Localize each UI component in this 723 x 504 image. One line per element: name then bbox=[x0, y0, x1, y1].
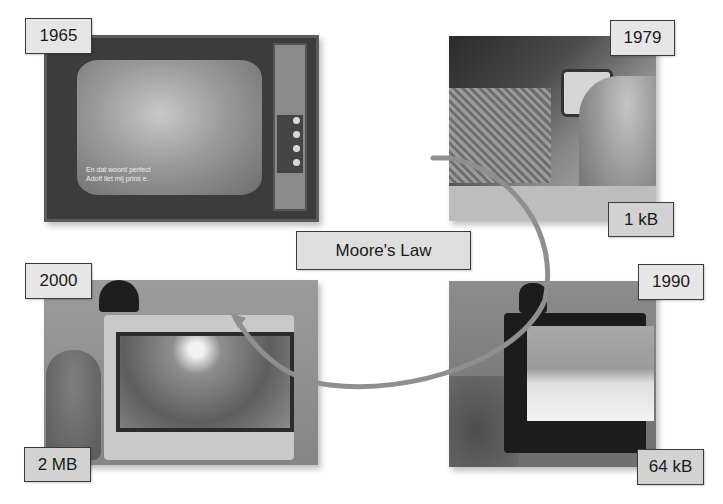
tv-1990-photo bbox=[449, 281, 656, 467]
year-label-2000: 2000 bbox=[25, 263, 92, 299]
year-label-1965: 1965 bbox=[25, 18, 92, 54]
knob-icon bbox=[293, 145, 300, 152]
knob-icon bbox=[293, 117, 300, 124]
screen-image bbox=[120, 336, 290, 428]
memory-label-1979: 1 kB bbox=[608, 202, 674, 237]
tv-1965-photo: En dat woord perfect Adolf liet mij prin… bbox=[44, 35, 319, 222]
tv-subtitle: En dat woord perfect Adolf liet mij prin… bbox=[86, 165, 151, 183]
year-label-1979: 1979 bbox=[610, 20, 675, 56]
knob-icon bbox=[293, 159, 300, 166]
tv-control-panel bbox=[273, 43, 307, 211]
subtitle-line-2: Adolf liet mij prins e. bbox=[86, 174, 151, 183]
lamp bbox=[519, 283, 547, 313]
knob-icon bbox=[293, 131, 300, 138]
circuit-board bbox=[449, 88, 551, 183]
doll bbox=[46, 350, 101, 460]
memory-label-2000: 2 MB bbox=[24, 447, 91, 482]
tv-screen bbox=[116, 332, 294, 432]
moores-law-title: Moore's Law bbox=[296, 231, 471, 270]
year-label-1990: 1990 bbox=[638, 264, 704, 300]
lamp bbox=[99, 280, 139, 312]
computer-1979-photo bbox=[449, 36, 656, 221]
subtitle-line-1: En dat woord perfect bbox=[86, 165, 151, 174]
tv-2000-photo bbox=[44, 280, 318, 465]
memory-label-1990: 64 kB bbox=[637, 449, 704, 485]
tv-screen bbox=[527, 326, 654, 421]
